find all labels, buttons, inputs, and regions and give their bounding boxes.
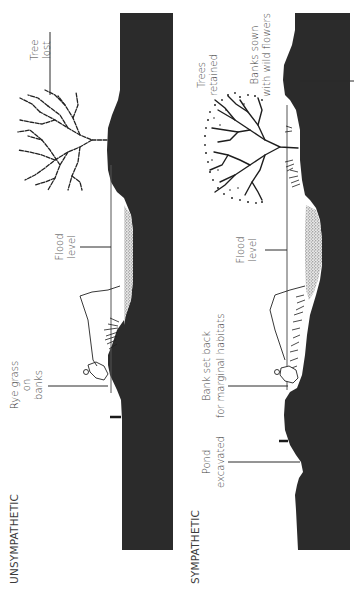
label-trees-retained: Trees retained (196, 54, 219, 96)
label-bank-set-back-line1: Bank set back (201, 331, 212, 401)
label-tree-lost-line1: Tree (29, 40, 40, 61)
label-rye-grass-line1: Rye grass (9, 361, 20, 409)
dead-tree-icon (18, 90, 107, 190)
label-bank-set-back: Bank set back for marginal habitats (201, 314, 226, 419)
wild-flowers-icon (289, 170, 305, 369)
label-pond-excavated: Pond excavated (201, 436, 226, 488)
label-flood-line1: Flood (235, 236, 246, 263)
label-flood-level-unsympathetic: Flood level (54, 233, 77, 260)
label-flood-line2: level (247, 238, 258, 262)
label-flood-line2: level (66, 235, 77, 259)
label-rye-grass-line3: banks (33, 370, 44, 400)
label-rye-grass: Rye grass on banks (9, 361, 44, 409)
label-banks-sown-line1: Banks sown (249, 25, 260, 84)
label-trees-retained-line2: retained (208, 54, 219, 96)
label-rye-grass-line2: on (21, 379, 32, 391)
title-unsympathetic-text: UNSYMPATHETIC (8, 494, 20, 584)
label-tree-lost: Tree lost (29, 40, 52, 61)
label-pond-excavated-line2: excavated (215, 436, 226, 488)
label-banks-sown: Banks sown with wild flowers (249, 13, 272, 97)
label-trees-retained-line1: Trees (196, 62, 207, 88)
title-sympathetic: SYMPATHETIC (189, 510, 201, 584)
river-cross-section-diagram: Tree lost Flood level Rye grass on banks… (0, 0, 364, 606)
label-flood-level-sympathetic: Flood level (235, 236, 258, 263)
label-bank-set-back-line2: for marginal habitats (215, 314, 226, 419)
label-banks-sown-line2: with wild flowers (261, 13, 272, 97)
unsympathetic-panel: Tree lost Flood level Rye grass on banks… (8, 13, 173, 584)
title-unsympathetic: UNSYMPATHETIC (8, 494, 20, 584)
label-pond-excavated-line1: Pond (201, 450, 212, 474)
unsympathetic-ground (107, 13, 173, 550)
sympathetic-panel: Trees retained Banks sown with wild flow… (189, 13, 354, 584)
label-flood-line1: Flood (54, 233, 65, 260)
living-tree-icon (204, 92, 298, 204)
title-sympathetic-text: SYMPATHETIC (189, 510, 201, 584)
